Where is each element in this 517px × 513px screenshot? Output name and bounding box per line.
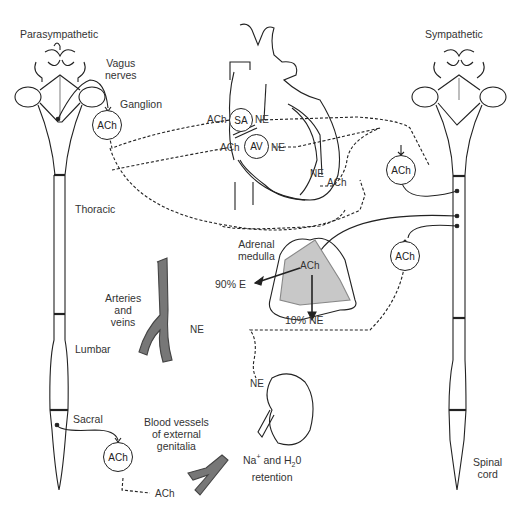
- left-brainstem-icon: [15, 43, 105, 175]
- kidney-effect-line2: retention: [243, 471, 301, 483]
- kidney-icon: [267, 374, 313, 445]
- lumbar-label: Lumbar: [75, 343, 111, 355]
- arteries-line2: and: [105, 304, 141, 316]
- adrenal-label: Adrenal medulla: [238, 238, 275, 262]
- arteries-line1: Arteries: [105, 292, 141, 304]
- norepinephrine-label: 10% NE: [285, 314, 324, 326]
- spinal-cord-label: Spinal cord: [473, 456, 502, 480]
- ventricle-ne-label: NE: [310, 168, 324, 180]
- zero-text: 0: [295, 454, 301, 466]
- genitalia-ach-label: ACh: [155, 488, 174, 500]
- right-spinal-cord: [449, 175, 466, 490]
- kidney-ne-label: NE: [250, 378, 264, 390]
- thoracic-label: Thoracic: [75, 203, 115, 215]
- av-ach-label: ACh: [220, 142, 239, 154]
- sympathetic-title: Sympathetic: [425, 28, 483, 40]
- genitalia-line1: Blood vessels: [144, 416, 209, 428]
- and-h-text: and H: [261, 454, 292, 466]
- sacral-label: Sacral: [73, 413, 103, 425]
- adrenal-ach-label: ACh: [300, 260, 319, 272]
- sympathetic-ganglion-upper-node: ACh: [386, 155, 416, 185]
- av-ne-label: NE: [271, 142, 285, 154]
- arteries-label: Arteries and veins: [105, 292, 141, 328]
- left-spinal-cord: [50, 175, 68, 490]
- parasympathetic-ganglion-node: ACh: [92, 110, 122, 140]
- ganglion-label: Ganglion: [120, 98, 162, 110]
- vessel-ne-label: NE: [190, 324, 204, 336]
- ventricle-ach-label: ACh: [327, 177, 346, 189]
- vagus-label-line2: nerves: [105, 69, 137, 81]
- spinal-line2: cord: [473, 468, 502, 480]
- sa-node: SA: [229, 108, 253, 132]
- na-text: Na: [243, 454, 256, 466]
- av-node: AV: [244, 134, 269, 159]
- vagus-label-line1: Vagus: [105, 57, 137, 69]
- right-brainstem-icon: [412, 50, 506, 175]
- arteries-line3: veins: [105, 316, 141, 328]
- kidney-effect-label: Na+ and H20 retention: [243, 451, 301, 483]
- genitalia-line2: of external: [144, 428, 209, 440]
- spinal-line1: Spinal: [473, 456, 502, 468]
- kidney-effect-line1: Na+ and H20: [243, 451, 301, 471]
- vagus-label: Vagus nerves: [105, 57, 137, 81]
- sympathetic-ganglion-lower-node: ACh: [390, 241, 420, 271]
- adrenal-line2: medulla: [238, 250, 275, 262]
- genitalia-label: Blood vessels of external genitalia: [144, 416, 209, 452]
- sa-ne-label: NE: [255, 114, 269, 126]
- sa-ach-label: ACh: [207, 114, 226, 126]
- parasympathetic-title: Parasympathetic: [20, 28, 98, 40]
- adrenal-line1: Adrenal: [238, 238, 275, 250]
- genital-vessel-icon: [188, 455, 228, 495]
- sacral-ganglion-node: ACh: [103, 442, 133, 472]
- artery-vessel-icon: [139, 258, 172, 362]
- genitalia-line3: genitalia: [144, 440, 209, 452]
- epinephrine-label: 90% E: [215, 278, 246, 290]
